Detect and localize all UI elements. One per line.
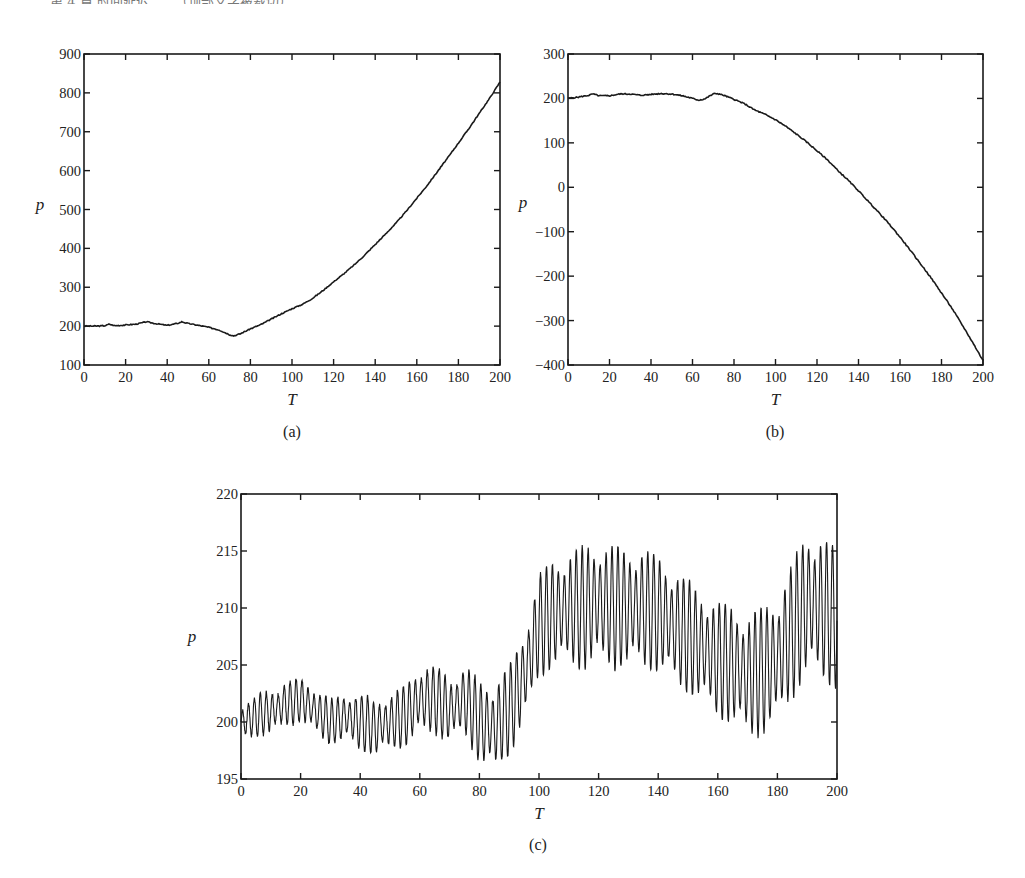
x-tick-label: 60 bbox=[413, 783, 428, 799]
y-tick-label: 100 bbox=[59, 357, 81, 373]
x-tick-label: 80 bbox=[727, 369, 742, 385]
x-tick-label: 120 bbox=[323, 369, 345, 385]
y-tick-label: 205 bbox=[216, 657, 238, 673]
x-tick-label: 180 bbox=[448, 369, 470, 385]
x-tick-label: 0 bbox=[237, 783, 244, 799]
chart-panel-a: 0204060801001201401601802001002003004005… bbox=[35, 46, 511, 441]
y-tick-label: 300 bbox=[59, 279, 81, 295]
y-axis-label: p bbox=[187, 627, 197, 646]
x-tick-label: 0 bbox=[564, 369, 571, 385]
x-tick-label: 160 bbox=[406, 369, 428, 385]
x-tick-label: 120 bbox=[588, 783, 610, 799]
x-axis-label: T bbox=[534, 804, 545, 823]
y-tick-label: 300 bbox=[543, 46, 565, 62]
y-axis-label: p bbox=[35, 195, 45, 214]
y-tick-label: 800 bbox=[59, 85, 81, 101]
y-tick-label: 700 bbox=[59, 124, 81, 140]
x-tick-label: 100 bbox=[765, 369, 787, 385]
x-tick-label: 0 bbox=[80, 369, 87, 385]
x-tick-label: 200 bbox=[826, 783, 848, 799]
y-tick-label: 210 bbox=[216, 600, 238, 616]
x-tick-label: 40 bbox=[644, 369, 659, 385]
panel-caption: (b) bbox=[766, 423, 785, 441]
y-tick-label: 200 bbox=[543, 90, 565, 106]
y-tick-label: 100 bbox=[543, 135, 565, 151]
x-tick-label: 140 bbox=[364, 369, 386, 385]
x-tick-label: 80 bbox=[243, 369, 258, 385]
x-tick-label: 180 bbox=[931, 369, 953, 385]
x-tick-label: 140 bbox=[848, 369, 870, 385]
x-tick-label: 200 bbox=[489, 369, 511, 385]
panel-caption: (a) bbox=[283, 423, 301, 441]
x-tick-label: 20 bbox=[118, 369, 133, 385]
x-tick-label: 60 bbox=[685, 369, 700, 385]
y-tick-label: 400 bbox=[59, 240, 81, 256]
y-axis-label: p bbox=[518, 193, 528, 212]
chart-panel-b: 020406080100120140160180200−400−300−200−… bbox=[518, 46, 994, 441]
x-tick-label: 20 bbox=[293, 783, 308, 799]
y-tick-label: 0 bbox=[558, 179, 565, 195]
y-tick-label: 900 bbox=[59, 46, 81, 62]
chart-panel-c: 0204060801001201401601802001952002052102… bbox=[187, 486, 848, 854]
y-tick-label: 195 bbox=[216, 771, 238, 787]
y-tick-label: −300 bbox=[535, 313, 565, 329]
x-tick-label: 140 bbox=[647, 783, 669, 799]
x-tick-label: 200 bbox=[972, 369, 994, 385]
x-tick-label: 100 bbox=[281, 369, 303, 385]
y-tick-label: −400 bbox=[535, 357, 565, 373]
y-tick-label: 215 bbox=[216, 543, 238, 559]
x-tick-label: 100 bbox=[528, 783, 550, 799]
x-tick-label: 40 bbox=[160, 369, 175, 385]
y-tick-label: 600 bbox=[59, 163, 81, 179]
plot-frame bbox=[568, 54, 983, 365]
data-line bbox=[568, 93, 983, 360]
data-line bbox=[84, 82, 500, 336]
plot-frame bbox=[84, 54, 500, 365]
x-axis-label: T bbox=[287, 390, 298, 409]
y-tick-label: 220 bbox=[216, 486, 238, 502]
x-tick-label: 180 bbox=[767, 783, 789, 799]
x-tick-label: 160 bbox=[889, 369, 911, 385]
figure-panels: 0204060801001201401601802001002003004005… bbox=[0, 0, 1025, 878]
y-tick-label: −100 bbox=[535, 224, 565, 240]
x-tick-label: 80 bbox=[472, 783, 487, 799]
x-tick-label: 160 bbox=[707, 783, 729, 799]
panel-caption: (c) bbox=[529, 836, 547, 854]
y-tick-label: −200 bbox=[535, 268, 565, 284]
x-tick-label: 120 bbox=[806, 369, 828, 385]
x-tick-label: 20 bbox=[602, 369, 617, 385]
y-tick-label: 200 bbox=[59, 318, 81, 334]
data-line bbox=[241, 542, 837, 761]
y-tick-label: 200 bbox=[216, 714, 238, 730]
x-tick-label: 40 bbox=[353, 783, 368, 799]
x-axis-label: T bbox=[771, 390, 782, 409]
x-tick-label: 60 bbox=[202, 369, 217, 385]
y-tick-label: 500 bbox=[59, 202, 81, 218]
